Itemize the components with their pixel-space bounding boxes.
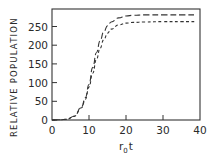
x-axis: 0 10 20 30 40 r0t (49, 115, 207, 155)
y-tick-label: 100 (28, 77, 48, 89)
x-tick-label: 0 (49, 124, 56, 136)
y-tick-label: 200 (28, 39, 48, 51)
y-tick-label: 50 (35, 95, 48, 107)
y-tick-label: 0 (41, 114, 48, 126)
x-tick-label: 20 (119, 124, 132, 136)
y-tick-label: 150 (28, 58, 48, 70)
x-tick-label: 40 (193, 124, 206, 136)
short-dashed-curve (52, 22, 196, 120)
y-axis: 0 50 100 150 200 250 RELATIVE POPULATION (9, 17, 57, 137)
plot-frame (52, 9, 200, 120)
y-tick-label: 250 (28, 21, 48, 33)
x-tick-label: 10 (82, 124, 95, 136)
long-dashed-curve (52, 15, 196, 120)
y-axis-title: RELATIVE POPULATION (9, 17, 19, 137)
x-tick-label: 30 (156, 124, 169, 136)
x-axis-title: r0t (119, 140, 133, 155)
chart: 0 50 100 150 200 250 RELATIVE POPULATION… (0, 0, 214, 159)
